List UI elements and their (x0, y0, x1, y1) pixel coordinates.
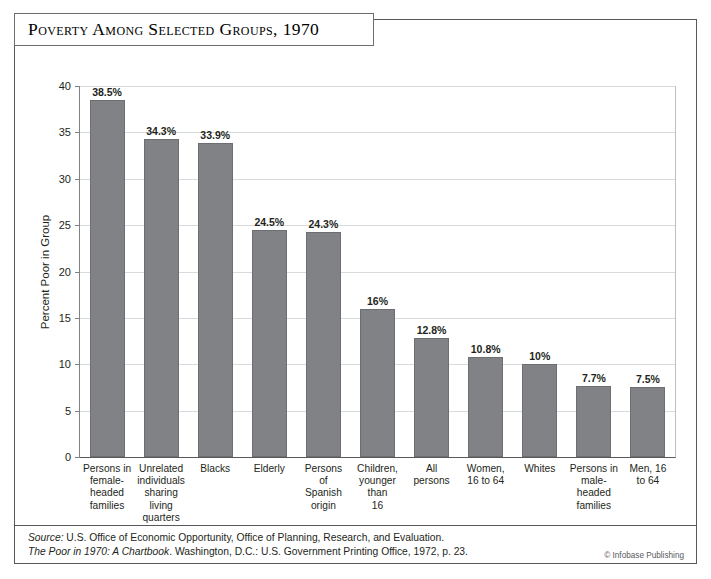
y-axis-tick-label: 25 (59, 219, 71, 231)
source-note: Source: U.S. Office of Economic Opportun… (28, 531, 568, 559)
x-axis-category-label: Men, 16to 64 (617, 463, 679, 487)
y-axis-tick-label: 20 (59, 266, 71, 278)
y-axis-tick-label: 10 (59, 358, 71, 370)
x-axis-category-label: Unrelatedindividualssharinglivingquarter… (130, 463, 192, 524)
bar[interactable]: 38.5%Persons infemale-headedfamilies (90, 100, 125, 457)
source-line-1: U.S. Office of Economic Opportunity, Off… (64, 532, 445, 543)
bar-value-label: 33.9% (200, 129, 230, 141)
y-axis-tick (75, 318, 80, 319)
source-line-2: . Washington, D.C.: U.S. Government Prin… (169, 546, 468, 557)
x-axis-category-label: Persons infemale-headedfamilies (76, 463, 138, 512)
page-title: Poverty Among Selected Groups, 1970 (28, 19, 319, 40)
bar-value-label: 10.8% (471, 343, 501, 355)
y-axis-tick-label: 35 (59, 126, 71, 138)
y-axis-title: Percent Poor in Group (37, 86, 53, 457)
bar-value-label: 16% (367, 295, 388, 307)
bar[interactable]: 12.8%Allpersons (414, 338, 449, 457)
bar[interactable]: 10.8%Women,16 to 64 (468, 357, 503, 457)
x-axis-category-label: Blacks (184, 463, 246, 475)
bar[interactable]: 24.5%Elderly (252, 230, 287, 457)
x-axis-category-label: Women,16 to 64 (455, 463, 517, 487)
y-axis-tick (75, 132, 80, 133)
y-axis-tick (75, 364, 80, 365)
bar[interactable]: 16%Children,youngerthan16 (360, 309, 395, 457)
footer-divider (15, 525, 696, 526)
y-axis-tick (75, 272, 80, 273)
source-prefix: Source: (28, 532, 64, 543)
y-axis-tick-label: 0 (65, 451, 71, 463)
gridline (80, 86, 675, 87)
bar[interactable]: 24.3%PersonsofSpanishorigin (306, 232, 341, 457)
y-axis-tick-label: 30 (59, 173, 71, 185)
chart-figure: Poverty Among Selected Groups, 1970 Perc… (14, 19, 697, 564)
y-axis-title-label: Percent Poor in Group (39, 214, 51, 328)
y-axis-tick-label: 5 (65, 405, 71, 417)
bar-value-label: 24.3% (309, 218, 339, 230)
bar-value-label: 34.3% (146, 125, 176, 137)
x-axis-category-label: Allpersons (401, 463, 463, 487)
bar[interactable]: 33.9%Blacks (198, 143, 233, 457)
bar-value-label: 38.5% (92, 86, 122, 98)
x-axis-category-label: Whites (509, 463, 571, 475)
y-axis-tick (75, 86, 80, 87)
plot-area: 051015202530354038.5%Persons infemale-he… (79, 86, 676, 458)
bar[interactable]: 34.3%Unrelatedindividualssharinglivingqu… (144, 139, 179, 457)
chart-title-box: Poverty Among Selected Groups, 1970 (14, 13, 374, 46)
bar-value-label: 7.7% (582, 372, 606, 384)
bar[interactable]: 10%Whites (522, 364, 557, 457)
bar-value-label: 7.5% (636, 373, 660, 385)
bar-value-label: 12.8% (417, 324, 447, 336)
bar[interactable]: 7.7%Persons inmale-headedfamilies (576, 386, 611, 457)
bar-value-label: 24.5% (254, 216, 284, 228)
x-axis-category-label: PersonsofSpanishorigin (292, 463, 354, 512)
y-axis-tick (75, 225, 80, 226)
y-axis-tick (75, 411, 80, 412)
x-axis-category-label: Children,youngerthan16 (347, 463, 409, 512)
y-axis-tick (75, 457, 80, 458)
x-axis-category-label: Elderly (238, 463, 300, 475)
publisher-credit: © Infobase Publishing (604, 551, 684, 560)
bar-value-label: 10% (529, 350, 550, 362)
y-axis-tick-label: 40 (59, 80, 71, 92)
bar[interactable]: 7.5%Men, 16to 64 (630, 387, 665, 457)
y-axis-tick-label: 15 (59, 312, 71, 324)
source-publication-title: The Poor in 1970: A Chartbook (28, 546, 169, 557)
x-axis-category-label: Persons inmale-headedfamilies (563, 463, 625, 512)
y-axis-tick (75, 179, 80, 180)
